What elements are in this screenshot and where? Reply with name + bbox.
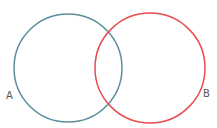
set-a-circle <box>14 14 122 122</box>
set-b-circle <box>95 13 205 123</box>
set-b-label: B <box>203 88 210 99</box>
venn-diagram: A B <box>0 0 217 128</box>
set-a-label: A <box>6 90 13 101</box>
